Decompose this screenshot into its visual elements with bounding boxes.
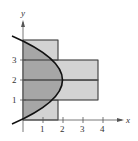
x-tick-2: 2	[60, 124, 65, 134]
chart: 1 2 3 4 1 2 3 x y	[0, 0, 138, 141]
plot-svg: 1 2 3 4 1 2 3 x y	[0, 0, 138, 141]
y-tick-3: 3	[12, 55, 17, 65]
y-axis-label: y	[20, 8, 25, 18]
y-tick-2: 2	[12, 75, 17, 85]
x-tick-3: 3	[80, 124, 85, 134]
x-axis-label: x	[125, 115, 130, 125]
x-tick-1: 1	[40, 124, 45, 134]
x-tick-4: 4	[100, 124, 105, 134]
y-tick-1: 1	[12, 95, 17, 105]
